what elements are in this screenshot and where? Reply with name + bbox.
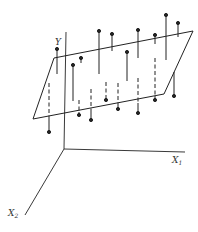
data-point-above (97, 29, 100, 32)
y-axis-line (64, 32, 66, 149)
data-point-above (110, 32, 113, 35)
data-point-above (71, 63, 74, 66)
x2-label-sub: 2 (13, 212, 18, 219)
data-point-below (136, 111, 139, 114)
data-point-below (104, 98, 107, 101)
data-point-above (176, 21, 179, 24)
data-point-below (172, 94, 175, 97)
data-point-below (47, 130, 50, 133)
data-point-above (164, 13, 167, 16)
x2-axis-label: X2 (7, 208, 18, 219)
x1-label-sub: 1 (178, 159, 182, 166)
data-point-above (125, 50, 128, 53)
y-axis-label: Y (55, 37, 62, 47)
data-point-above (55, 47, 58, 50)
data-point-below (116, 107, 119, 110)
data-point-above (79, 56, 82, 59)
data-points (47, 13, 179, 133)
data-point-above (136, 28, 139, 31)
regression-plane-diagram: Y X1 X2 (0, 0, 198, 232)
data-point-below (89, 118, 92, 121)
data-point-below (153, 98, 156, 101)
data-point-below (77, 113, 80, 116)
data-point-above (153, 33, 156, 36)
x1-axis-label: X1 (171, 155, 182, 166)
x2-axis-line (25, 149, 64, 215)
x1-axis-line (64, 149, 185, 152)
